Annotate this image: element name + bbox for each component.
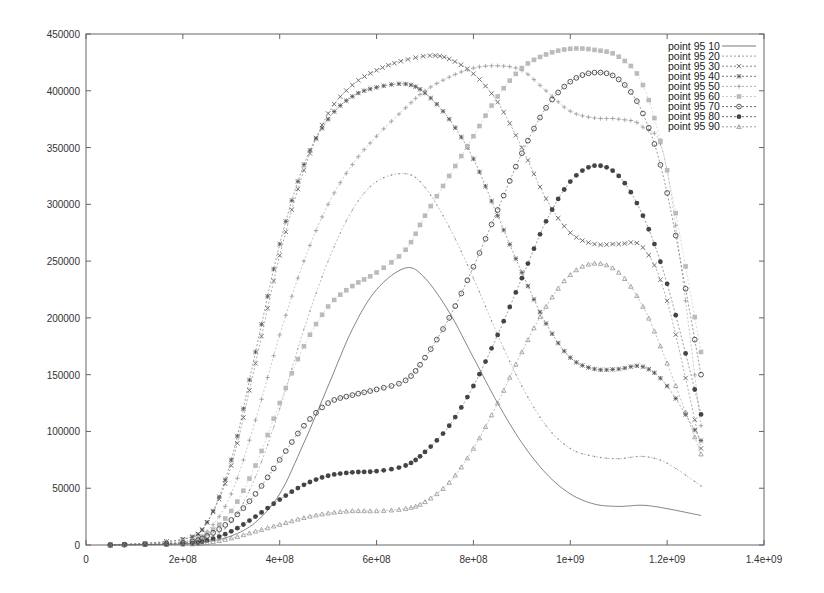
series-point-95-10 — [110, 268, 701, 546]
series-point-95-70 — [108, 70, 704, 547]
series-point-95-20 — [110, 173, 702, 546]
x-tick-label: 1.2e+09 — [649, 554, 686, 565]
x-tick-label: 1e+09 — [556, 554, 585, 565]
x-tick-label: 8e+08 — [459, 554, 488, 565]
y-tick-label: 300000 — [47, 199, 81, 210]
y-tick-label: 100000 — [47, 426, 81, 437]
legend: point 95 10point 95 20point 95 30point 9… — [668, 40, 756, 133]
x-tick-label: 6e+08 — [363, 554, 392, 565]
x-tick-label: 2e+08 — [169, 554, 198, 565]
y-tick-label: 250000 — [47, 256, 81, 267]
y-tick-label: 450000 — [47, 29, 81, 40]
y-tick-label: 350000 — [47, 143, 81, 154]
y-tick-label: 400000 — [47, 86, 81, 97]
series-point-95-30 — [108, 53, 703, 547]
series-point-95-50 — [108, 64, 703, 548]
series-point-95-90 — [108, 261, 703, 547]
legend-label: point 95 90 — [668, 120, 720, 132]
plot-area — [86, 34, 764, 545]
series-point-95-60 — [108, 46, 703, 547]
x-tick-label: 0 — [83, 554, 89, 565]
y-tick-label: 0 — [74, 540, 80, 551]
line-chart: 0500001000001500002000002500003000003500… — [0, 0, 824, 593]
x-tick-label: 4e+08 — [266, 554, 295, 565]
y-tick-label: 50000 — [52, 483, 80, 494]
legend-item: point 95 90 — [668, 120, 756, 132]
series-layer — [108, 46, 704, 547]
series-point-95-40 — [108, 82, 703, 548]
x-tick-label: 1.4e+09 — [746, 554, 783, 565]
y-tick-label: 150000 — [47, 370, 81, 381]
series-point-95-80 — [108, 163, 704, 547]
y-tick-label: 200000 — [47, 313, 81, 324]
